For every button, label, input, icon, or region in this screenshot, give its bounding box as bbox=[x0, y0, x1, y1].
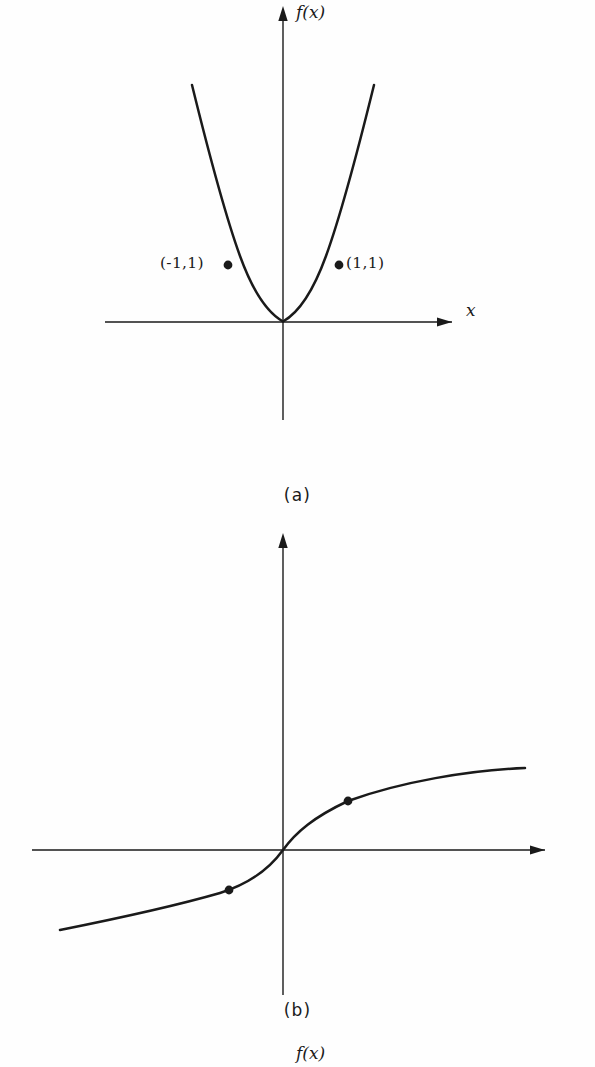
panel-a-y-axis bbox=[278, 6, 287, 420]
panel-a-x-axis-label: x bbox=[466, 300, 476, 320]
figure-panel-b: f(x) x (1,1) (-1,-1) bbox=[0, 520, 595, 1067]
panel-a-point-left bbox=[224, 261, 233, 270]
panel-b-caption: (b) bbox=[0, 1000, 595, 1020]
figure-panel-a: f(x) x (-1,1) (1,1) bbox=[0, 0, 595, 530]
panel-a-point-right bbox=[335, 261, 344, 270]
panel-a-point-label-left: (-1,1) bbox=[160, 254, 204, 272]
x-axis-arrowhead-icon bbox=[530, 846, 545, 855]
panel-a-y-axis-label: f(x) bbox=[296, 2, 325, 22]
panel-b-y-axis bbox=[278, 533, 287, 995]
panel-b-curve bbox=[60, 768, 525, 930]
panel-b-point-right bbox=[344, 797, 353, 806]
panel-a-caption: (a) bbox=[0, 485, 595, 505]
y-axis-arrowhead-icon bbox=[278, 533, 287, 548]
panel-b-point-left bbox=[225, 886, 234, 895]
x-axis-arrowhead-icon bbox=[437, 318, 452, 327]
y-axis-arrowhead-icon bbox=[278, 6, 287, 21]
panel-b-y-axis-label: f(x) bbox=[296, 1043, 325, 1063]
figure-root: f(x) x (-1,1) (1,1) (a) f(x) x (1,1) bbox=[0, 0, 595, 1067]
panel-a-point-label-right: (1,1) bbox=[346, 254, 384, 272]
panel-b-x-axis bbox=[32, 846, 545, 855]
panel-b-plot bbox=[0, 520, 595, 1067]
panel-a-plot bbox=[0, 0, 595, 530]
